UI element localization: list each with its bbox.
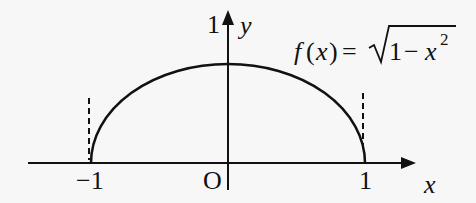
y-axis-label: y bbox=[237, 11, 252, 40]
tick-label-x-neg: −1 bbox=[76, 166, 104, 195]
radicand-exponent: 2 bbox=[440, 30, 449, 49]
radicand-one: 1 bbox=[389, 37, 402, 66]
x-axis-arrow-icon bbox=[401, 157, 416, 169]
radicand-var: x bbox=[424, 37, 437, 66]
fn-var: x bbox=[315, 37, 328, 66]
x-axis-label: x bbox=[423, 170, 436, 199]
tick-label-y-top: 1 bbox=[207, 10, 220, 39]
fn-equals: = bbox=[342, 37, 357, 66]
graph-svg: −1 1 1 O x y f ( x ) = 1 − x 2 bbox=[0, 0, 476, 203]
y-axis-arrow-icon bbox=[222, 10, 234, 25]
origin-label: O bbox=[203, 166, 222, 195]
tick-label-x-pos: 1 bbox=[359, 166, 372, 195]
radicand-minus: − bbox=[404, 37, 419, 66]
diagram-canvas: −1 1 1 O x y f ( x ) = 1 − x 2 bbox=[0, 0, 476, 203]
fn-close-paren: ) bbox=[329, 37, 338, 66]
function-label: f ( x ) = 1 − x 2 bbox=[294, 26, 456, 66]
fn-open-paren: ( bbox=[306, 37, 315, 66]
fn-name: f bbox=[294, 37, 305, 66]
